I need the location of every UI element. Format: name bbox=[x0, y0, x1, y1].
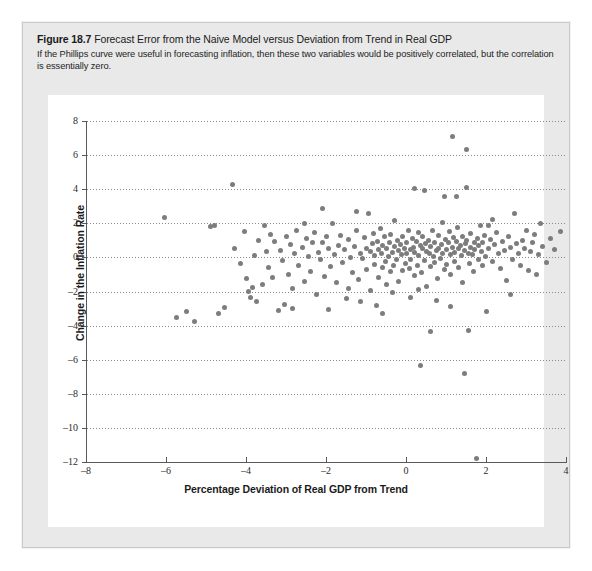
scatter-point bbox=[418, 363, 423, 368]
scatter-point bbox=[435, 276, 440, 281]
scatter-point bbox=[434, 298, 439, 303]
scatter-point bbox=[252, 253, 257, 258]
scatter-point bbox=[528, 249, 533, 254]
scatter-point bbox=[482, 233, 487, 238]
scatter-point bbox=[222, 305, 227, 310]
scatter-point bbox=[248, 295, 253, 300]
scatter-point bbox=[346, 237, 351, 242]
figure-title: Figure 18.7 Forecast Error from the Naiv… bbox=[37, 32, 555, 46]
scatter-point bbox=[174, 315, 179, 320]
scatter-point bbox=[538, 221, 543, 226]
scatter-point bbox=[506, 234, 511, 239]
scatter-point bbox=[400, 234, 405, 239]
scatter-point bbox=[467, 261, 472, 266]
scatter-point bbox=[384, 282, 389, 287]
scatter-point bbox=[468, 231, 473, 236]
scatter-point bbox=[302, 221, 307, 226]
gridline bbox=[87, 394, 566, 395]
gridline bbox=[87, 360, 566, 361]
scatter-point bbox=[390, 290, 395, 295]
scatter-point bbox=[486, 223, 491, 228]
scatter-point bbox=[448, 272, 453, 277]
scatter-point bbox=[488, 237, 493, 242]
scatter-point bbox=[244, 276, 249, 281]
scatter-point bbox=[496, 251, 501, 256]
scatter-point bbox=[396, 279, 401, 284]
scatter-point bbox=[475, 236, 480, 241]
scatter-point bbox=[391, 263, 396, 268]
scatter-point bbox=[288, 242, 293, 247]
scatter-point bbox=[380, 265, 385, 270]
scatter-point bbox=[264, 249, 269, 254]
scatter-point bbox=[192, 319, 197, 324]
scatter-point bbox=[266, 265, 271, 270]
scatter-point bbox=[379, 251, 384, 256]
scatter-point bbox=[312, 230, 317, 235]
scatter-point bbox=[394, 257, 399, 262]
scatter-point bbox=[238, 261, 243, 266]
scatter-point bbox=[286, 272, 291, 277]
scatter-point bbox=[436, 233, 441, 238]
scatter-point bbox=[490, 259, 495, 264]
scatter-point bbox=[442, 194, 447, 199]
scatter-point bbox=[470, 252, 475, 257]
scatter-point bbox=[284, 234, 289, 239]
scatter-point bbox=[232, 246, 237, 251]
scatter-point bbox=[376, 275, 381, 280]
gridline bbox=[87, 121, 566, 122]
scatter-point bbox=[471, 269, 476, 274]
scatter-point bbox=[502, 248, 507, 253]
scatter-point bbox=[450, 134, 455, 139]
scatter-point bbox=[230, 182, 235, 187]
scatter-point bbox=[330, 221, 335, 226]
scatter-point bbox=[455, 225, 460, 230]
scatter-point bbox=[536, 252, 541, 257]
scatter-point bbox=[534, 272, 539, 277]
scatter-point bbox=[342, 247, 347, 252]
scatter-point bbox=[490, 217, 495, 222]
scatter-point bbox=[384, 246, 389, 251]
scatter-point bbox=[494, 230, 499, 235]
scatter-point bbox=[422, 258, 427, 263]
y-tick-label: –10 bbox=[48, 422, 78, 433]
scatter-point bbox=[332, 252, 337, 257]
gridline bbox=[87, 292, 566, 293]
scatter-point bbox=[316, 250, 321, 255]
scatter-point bbox=[444, 247, 449, 252]
scatter-point bbox=[383, 259, 388, 264]
scatter-point bbox=[302, 279, 307, 284]
scatter-point bbox=[326, 307, 331, 312]
scatter-point bbox=[456, 265, 461, 270]
scatter-point bbox=[378, 226, 383, 231]
scatter-point bbox=[246, 289, 251, 294]
scatter-point bbox=[540, 244, 545, 249]
scatter-point bbox=[354, 209, 359, 214]
scatter-point bbox=[464, 147, 469, 152]
scatter-point bbox=[400, 268, 405, 273]
scatter-point bbox=[524, 228, 529, 233]
scatter-point bbox=[424, 284, 429, 289]
scatter-point bbox=[508, 292, 513, 297]
scatter-point bbox=[440, 220, 445, 225]
scatter-point bbox=[334, 280, 339, 285]
scatter-point bbox=[256, 238, 261, 243]
scatter-point bbox=[440, 251, 445, 256]
scatter-point bbox=[272, 239, 277, 244]
scatter-point bbox=[512, 211, 517, 216]
scatter-point bbox=[428, 244, 433, 249]
scatter-point bbox=[458, 243, 463, 248]
scatter-point bbox=[479, 249, 484, 254]
scatter-point bbox=[548, 236, 553, 241]
scatter-point bbox=[522, 246, 527, 251]
x-axis-line bbox=[86, 462, 566, 463]
scatter-point bbox=[270, 275, 275, 280]
x-tick-label: 0 bbox=[391, 465, 421, 476]
scatter-point bbox=[360, 256, 365, 261]
scatter-point bbox=[338, 233, 343, 238]
y-tick-label: 8 bbox=[48, 115, 78, 126]
x-axis-title: Percentage Deviation of Real GDP from Tr… bbox=[48, 483, 544, 495]
scatter-point bbox=[464, 238, 469, 243]
scatter-point bbox=[364, 267, 369, 272]
x-tick-label: –4 bbox=[231, 465, 261, 476]
scatter-point bbox=[478, 223, 483, 228]
